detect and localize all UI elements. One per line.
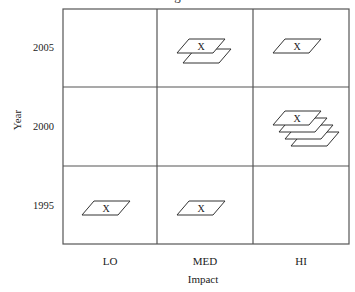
marker-x-label: X <box>197 203 205 214</box>
marker-stack-2005-hi: X <box>273 39 321 53</box>
impact-year-grid: XXXXX <box>0 0 355 292</box>
marker-stack-1995-med: X <box>177 201 225 215</box>
marker-x-label: X <box>102 203 110 214</box>
marker-x-label: X <box>197 41 205 52</box>
marker-stack-1995-lo: X <box>82 201 130 215</box>
marker-x-label: X <box>293 41 301 52</box>
marker-stack-2005-med: X <box>177 39 231 63</box>
marker-stack-2000-hi: X <box>273 111 339 146</box>
marker-x-label: X <box>293 113 301 124</box>
